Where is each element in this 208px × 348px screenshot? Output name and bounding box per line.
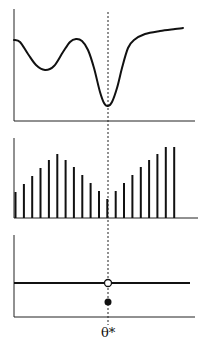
bar	[123, 183, 125, 218]
filled-dot-marker	[105, 299, 112, 306]
bar-series	[15, 147, 176, 218]
bar	[115, 191, 117, 218]
bar	[15, 192, 17, 218]
bar	[48, 160, 50, 218]
bar	[40, 168, 42, 218]
bar	[156, 154, 158, 218]
bar	[106, 199, 108, 218]
bar	[73, 167, 75, 218]
bar	[65, 160, 67, 218]
bar	[31, 176, 33, 218]
bar	[165, 147, 167, 218]
bar	[140, 167, 142, 218]
bar	[98, 191, 100, 218]
diagram	[0, 0, 208, 348]
bar	[173, 147, 175, 218]
bar	[23, 184, 25, 218]
bar	[131, 175, 133, 218]
bar	[90, 183, 92, 218]
top-panel	[14, 9, 195, 121]
theta-star-label: θ*	[101, 325, 115, 340]
middle-panel	[14, 138, 198, 218]
bar	[148, 160, 150, 218]
open-circle-marker	[105, 280, 112, 287]
bottom-panel	[14, 235, 195, 317]
bar	[56, 154, 58, 218]
objective-curve	[14, 28, 183, 106]
bar	[81, 175, 83, 218]
